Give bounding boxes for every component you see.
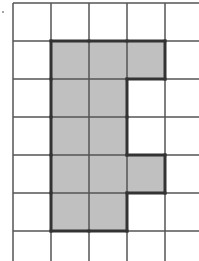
shaded-cell (89, 117, 127, 155)
shaded-cell (127, 41, 165, 79)
shaded-cell (127, 155, 165, 193)
shaded-cell (51, 193, 89, 231)
shaded-cell (51, 117, 89, 155)
shaded-cell (89, 79, 127, 117)
shaded-cell (89, 193, 127, 231)
shaded-cell (51, 155, 89, 193)
shaded-cell (51, 41, 89, 79)
grid-diagram (0, 0, 199, 261)
shaded-cell (51, 79, 89, 117)
shaded-cell (89, 41, 127, 79)
shaded-cell (89, 155, 127, 193)
